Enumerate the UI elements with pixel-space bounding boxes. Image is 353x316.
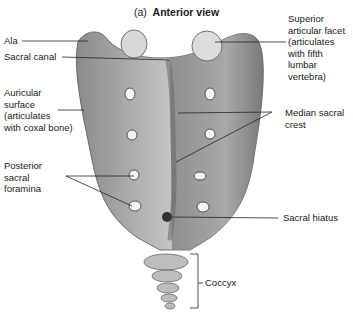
left-articular-facet (121, 30, 147, 58)
label-posterior-sacral-foramina: Posterior sacral foramina (4, 160, 42, 195)
label-sacral-hiatus: Sacral hiatus (283, 212, 338, 224)
label-ala: Ala (4, 35, 18, 47)
label-auricular-surface: Auricular surface (articulates with coxa… (4, 87, 73, 133)
label-sacral-canal: Sacral canal (4, 51, 56, 63)
sacral-hiatus-opening (162, 212, 172, 222)
label-superior-articular-facet: Superior articular facet (articulates wi… (288, 13, 345, 82)
label-median-sacral-crest: Median sacral crest (285, 107, 344, 130)
coccyx-bones (144, 254, 188, 309)
label-coccyx: Coccyx (205, 277, 236, 289)
right-articular-facet (192, 31, 222, 61)
